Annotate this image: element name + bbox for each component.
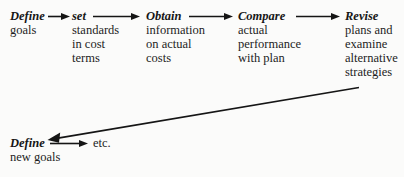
desc-line: on actual <box>146 37 238 51</box>
stage-title: Obtain <box>146 9 238 23</box>
stage-title: Revise <box>345 9 404 23</box>
stage-description: plans and examine alternative strategies <box>345 23 404 79</box>
desc-line: alternative <box>345 51 404 65</box>
stage-define-new-goals: Define new goals <box>10 136 102 164</box>
desc-line: information <box>146 23 238 37</box>
stage-description: actual performance with plan <box>238 23 330 65</box>
stage-compare: Compare actual performance with plan <box>238 9 330 65</box>
stage-description: information on actual costs <box>146 23 238 65</box>
arrow-revise-to-define-new <box>48 88 360 143</box>
desc-line: with plan <box>238 51 330 65</box>
stage-revise: Revise plans and examine alternative str… <box>345 9 404 79</box>
desc-line: actual <box>238 23 330 37</box>
desc-line: performance <box>238 37 330 51</box>
desc-line: new goals <box>10 150 102 164</box>
stage-title: Compare <box>238 9 330 23</box>
terminal-label-etc: etc. <box>93 136 111 150</box>
stage-title: Define <box>10 136 102 150</box>
control-cycle-diagram: Define goals set standards in cost terms… <box>0 0 404 177</box>
desc-line: costs <box>146 51 238 65</box>
desc-line: plans and <box>345 23 404 37</box>
stage-obtain-information: Obtain information on actual costs <box>146 9 238 65</box>
desc-line: examine <box>345 37 404 51</box>
stage-description: new goals <box>10 150 102 164</box>
desc-line: strategies <box>345 65 404 79</box>
